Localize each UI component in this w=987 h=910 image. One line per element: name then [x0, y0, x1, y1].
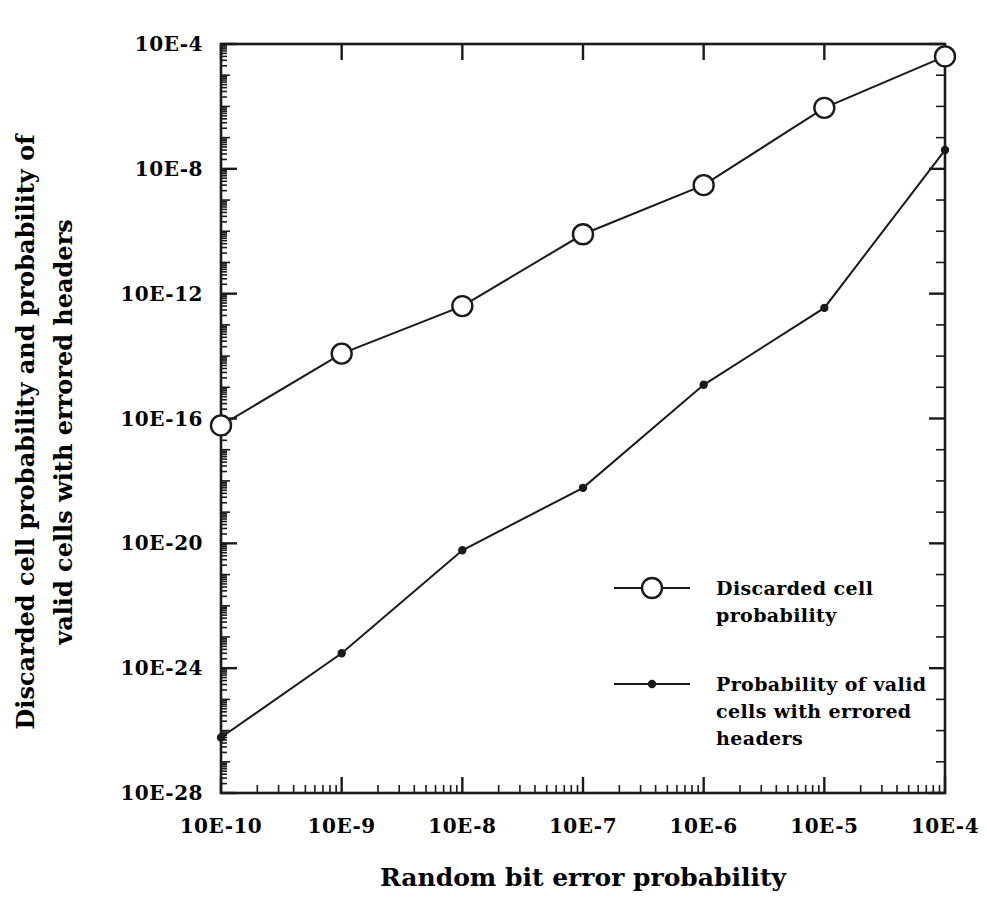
- data-point: [700, 381, 707, 388]
- data-point: [821, 304, 828, 311]
- y-axis-title-line2: valid cells with errored headers: [49, 219, 78, 646]
- y-tick-label: 10E-12: [120, 282, 203, 306]
- x-tick-label: 10E-4: [911, 814, 979, 838]
- x-tick-label: 10E-8: [428, 814, 496, 838]
- data-point: [459, 547, 466, 554]
- y-tick-label: 10E-4: [135, 32, 203, 56]
- x-tick-label: 10E-5: [790, 814, 858, 838]
- y-tick-label: 10E-16: [120, 407, 203, 431]
- data-point: [332, 344, 352, 364]
- data-point: [935, 46, 955, 66]
- data-point: [217, 734, 224, 741]
- legend-marker: [648, 680, 655, 687]
- x-tick-label: 10E-7: [549, 814, 617, 838]
- x-axis-title: Random bit error probability: [380, 863, 788, 892]
- data-point: [941, 146, 948, 153]
- legend-label: cells with errored: [716, 700, 912, 722]
- legend-label: headers: [716, 727, 803, 749]
- y-tick-label: 10E-24: [120, 656, 203, 680]
- data-point: [211, 415, 231, 435]
- legend-label: Probability of valid: [716, 673, 926, 695]
- y-tick-label: 10E-20: [120, 531, 203, 555]
- data-point: [814, 98, 834, 118]
- y-tick-label: 10E-8: [135, 157, 203, 181]
- y-tick-label: 10E-28: [120, 781, 203, 805]
- data-point: [452, 296, 472, 316]
- x-tick-label: 10E-9: [308, 814, 376, 838]
- legend-label: Discarded cell: [716, 577, 873, 599]
- chart-figure: 10E-410E-810E-1210E-1610E-2010E-2410E-28…: [0, 0, 987, 910]
- data-point: [579, 484, 586, 491]
- legend-label: probability: [716, 604, 837, 626]
- data-point: [573, 224, 593, 244]
- legend-marker: [642, 578, 662, 598]
- data-point: [694, 175, 714, 195]
- y-axis-title-line1: Discarded cell probability and probabili…: [11, 133, 40, 730]
- x-tick-label: 10E-10: [180, 814, 263, 838]
- data-point: [338, 650, 345, 657]
- x-tick-label: 10E-6: [670, 814, 738, 838]
- figure-background: [0, 0, 987, 910]
